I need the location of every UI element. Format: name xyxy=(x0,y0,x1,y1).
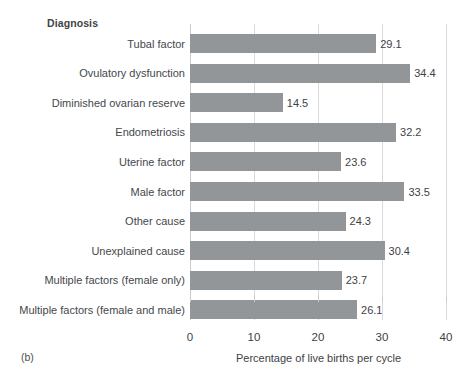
gridline-40 xyxy=(446,24,447,320)
category-label-column: Tubal factorOvulatory dysfunctionDiminis… xyxy=(0,0,185,389)
bar xyxy=(190,182,404,201)
bar-value-label: 34.4 xyxy=(410,67,435,79)
bar-value-label: 33.5 xyxy=(404,186,429,198)
bar-value-label: 29.1 xyxy=(376,38,401,50)
x-tick-10 xyxy=(254,296,255,302)
x-tick-label-20: 20 xyxy=(312,331,325,343)
x-axis-title: Percentage of live births per cycle xyxy=(190,352,447,364)
bar-value-label: 23.6 xyxy=(341,156,366,168)
bar-row: 26.1 xyxy=(190,300,446,319)
category-label: Diminished ovarian reserve xyxy=(0,97,185,109)
bar xyxy=(190,271,342,290)
bar-row: 14.5 xyxy=(190,93,446,112)
panel-caption: (b) xyxy=(21,351,34,363)
bar-value-label: 32.2 xyxy=(396,126,421,138)
bar-value-label: 30.4 xyxy=(385,245,410,257)
category-label: Male factor xyxy=(0,186,185,198)
x-tick-20 xyxy=(318,296,319,302)
category-label: Endometriosis xyxy=(0,126,185,138)
bar-value-label: 14.5 xyxy=(283,97,308,109)
x-axis-line xyxy=(190,320,447,321)
category-label: Uterine factor xyxy=(0,156,185,168)
x-tick-0 xyxy=(190,296,191,302)
bar-row: 34.4 xyxy=(190,64,446,83)
bar xyxy=(190,93,283,112)
x-tick-label-10: 10 xyxy=(248,331,261,343)
bar xyxy=(190,34,376,53)
category-label: Unexplained cause xyxy=(0,245,185,257)
category-label: Ovulatory dysfunction xyxy=(0,67,185,79)
bar-row: 24.3 xyxy=(190,212,446,231)
bar-value-label: 23.7 xyxy=(342,274,367,286)
bar xyxy=(190,212,346,231)
bar xyxy=(190,241,385,260)
x-tick-label-0: 0 xyxy=(187,331,193,343)
x-tick-label-30: 30 xyxy=(376,331,389,343)
category-label: Other cause xyxy=(0,215,185,227)
bar-row: 23.6 xyxy=(190,152,446,171)
category-label: Tubal factor xyxy=(0,38,185,50)
bar-row: 32.2 xyxy=(190,123,446,142)
x-tick-30 xyxy=(382,296,383,302)
plot-area: 29.134.414.532.223.633.524.330.423.726.1 xyxy=(190,24,446,320)
bar xyxy=(190,152,341,171)
bar xyxy=(190,64,410,83)
bar-chart-figure: Diagnosis Tubal factorOvulatory dysfunct… xyxy=(0,0,469,389)
bar-row: 30.4 xyxy=(190,241,446,260)
category-label: Multiple factors (female only) xyxy=(0,274,185,286)
category-label: Multiple factors (female and male) xyxy=(0,304,185,316)
bar-value-label: 26.1 xyxy=(357,304,382,316)
bar xyxy=(190,123,396,142)
x-tick-40 xyxy=(446,296,447,302)
x-tick-label-40: 40 xyxy=(440,331,453,343)
bar-row: 33.5 xyxy=(190,182,446,201)
bar-value-label: 24.3 xyxy=(346,215,371,227)
bar-row: 23.7 xyxy=(190,271,446,290)
bar xyxy=(190,300,357,319)
bar-row: 29.1 xyxy=(190,34,446,53)
